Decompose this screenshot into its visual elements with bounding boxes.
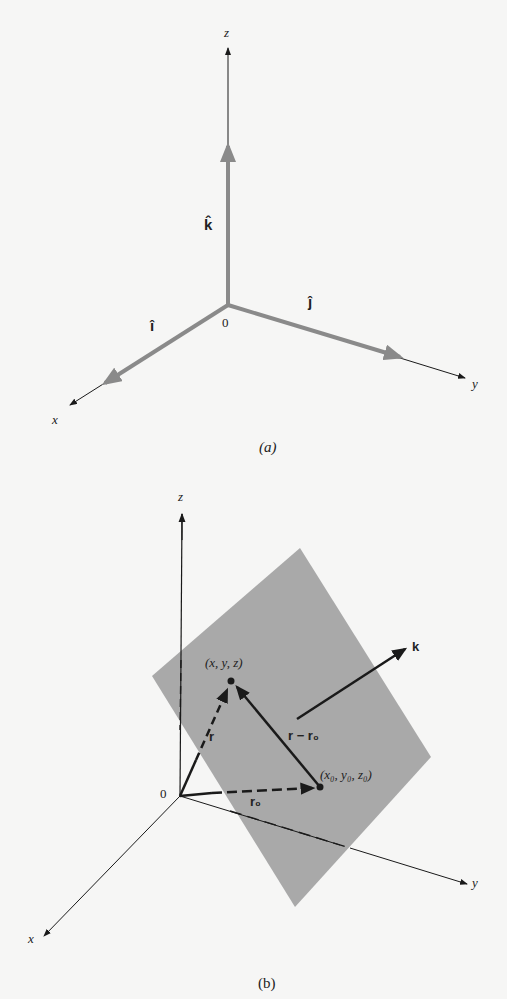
figure-b [44,514,467,936]
caption-a: (a) [259,440,277,455]
origin-label-a: 0 [222,316,229,329]
i-hat-label: î [150,318,154,333]
r-label: r [209,730,214,743]
normal-k-label: k [412,640,419,653]
j-hat-label: ĵ [308,294,312,309]
point-x0y0z0 [317,784,324,791]
origin-label-b: 0 [160,787,167,800]
r-minus-r0-label: r − r₀ [288,729,319,742]
k-hat-label: k̂ [204,217,212,232]
z-axis-label-a: z [224,26,229,39]
figure-a [70,48,465,405]
x-axis-label-b: x [28,932,34,945]
caption-b: (b) [258,976,276,991]
x-axis-label-a: x [52,413,58,426]
diagram-canvas [0,0,507,999]
point-xyz-label: (x, y, z) [205,656,243,669]
i-hat-vector [105,305,228,383]
z-axis-label-b: z [178,490,183,503]
r0-label: r₀ [250,795,261,808]
y-axis-label-b: y [472,876,478,889]
y-axis-label-a: y [472,377,478,390]
y-axis-b [350,848,467,884]
point-x0y0z0-label: (x₀, y₀, z₀) [320,768,372,781]
point-xyz [228,678,235,685]
j-hat-vector [228,305,400,357]
x-axis-b [44,796,180,936]
